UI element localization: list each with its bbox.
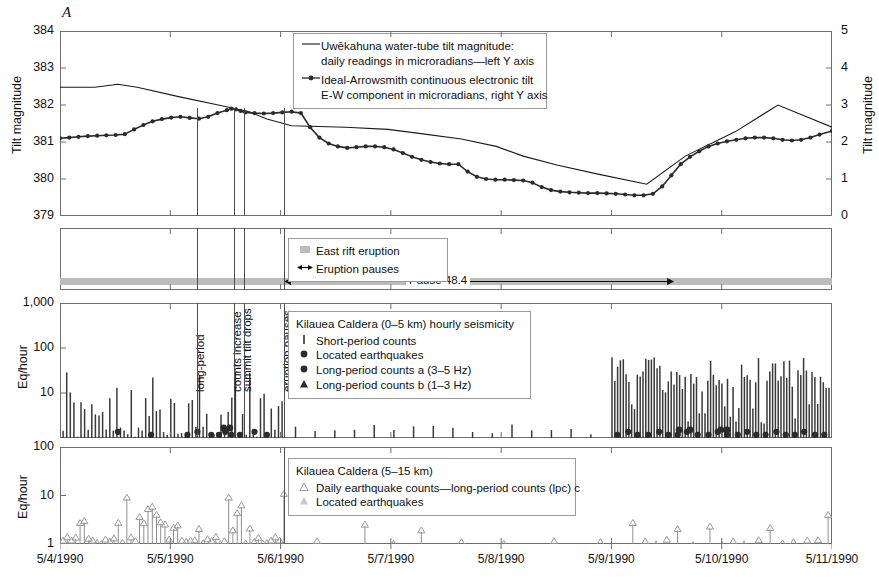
deep-legend: Kilauea Caldera (5–15 km) Daily earthqua… [288, 458, 576, 516]
annotation-line [244, 303, 245, 438]
annotation-line [234, 108, 235, 216]
annotation-line [284, 303, 285, 438]
shallow-tick: 100 [0, 340, 54, 354]
tilt-right-tick: 4 [841, 60, 861, 74]
deep-legend-title: Kilauea Caldera (5–15 km) [296, 464, 567, 479]
deep-legend-0-label: Daily earthquake counts—long-period coun… [316, 481, 580, 496]
shallow-legend-title: Kilauea Caldera (0–5 km) hourly seismici… [296, 317, 522, 332]
x-axis-ticks [60, 544, 832, 552]
shallow-legend: Kilauea Caldera (0–5 km) hourly seismici… [288, 311, 531, 399]
filled-circle-icon [296, 363, 316, 374]
x-axis-label: 5/8/1990 [456, 552, 546, 566]
annotation-line [244, 108, 245, 216]
filled-triangle-icon [296, 378, 316, 389]
x-axis-label: 5/7/1990 [346, 552, 436, 566]
light-triangle-icon [296, 495, 316, 506]
bar-symbol-icon [296, 334, 316, 345]
annotation-label: long-period [194, 334, 206, 392]
deep-tick: 10 [0, 488, 54, 502]
deep-tick: 1 [0, 536, 54, 550]
shallow-legend-3-label: Long-period counts b (1–3 Hz) [316, 378, 471, 393]
annotation-line [234, 303, 235, 438]
double-arrow-icon [296, 262, 316, 272]
filled-circle-icon [296, 348, 316, 359]
tilt-right-tick: 1 [841, 171, 861, 185]
annotation-line [197, 228, 198, 290]
annotation-line [284, 447, 285, 544]
tilt-right-tick: 3 [841, 97, 861, 111]
shallow-legend-2-label: Long-period counts a (3–5 Hz) [316, 363, 471, 378]
tilt-y-right-axis-title: Tilt magnitude [861, 65, 875, 165]
tilt-right-tick: 5 [841, 23, 861, 37]
x-axis-label: 5/10/1990 [677, 552, 767, 566]
x-axis-label: 5/9/1990 [566, 552, 656, 566]
annotation-line [284, 108, 285, 216]
annotation-line [244, 228, 245, 290]
deep-legend-1-label: Located earthquakes [316, 495, 423, 510]
eruption-legend-0-label: East rift eruption [316, 244, 400, 259]
shallow-legend-0-label: Short-period counts [316, 334, 416, 349]
tilt-y-left-axis-title: Tilt magnitude [10, 65, 24, 165]
annotation-label: summit tilt drops [241, 308, 253, 392]
tilt-right-tick: 2 [841, 134, 861, 148]
x-axis-label: 5/6/1990 [236, 552, 326, 566]
panel-letter: A [62, 4, 71, 21]
figure-root: A Tilt magnitude Tilt magnitude 38438338… [0, 0, 879, 580]
annotation-line [284, 228, 285, 290]
tilt-right-tick: 0 [841, 208, 861, 222]
shallow-tick: 10 [0, 385, 54, 399]
shallow-legend-1-label: Located earthquakes [316, 348, 423, 363]
x-axis-label: 5/4/1990 [15, 552, 105, 566]
open-triangle-icon [296, 481, 316, 492]
annotation-line [234, 228, 235, 290]
x-axis-label: 5/11/1990 [787, 552, 877, 566]
shallow-tick: 1,000 [0, 295, 54, 309]
eruption-legend-1-label: Eruption pauses [316, 262, 399, 277]
annotation-line [197, 108, 198, 216]
annotation-line [197, 303, 198, 438]
x-axis-label: 5/5/1990 [125, 552, 215, 566]
gray-square-icon [296, 244, 316, 254]
deep-tick: 100 [0, 439, 54, 453]
eruption-legend: East rift eruption Eruption pauses [288, 238, 448, 282]
